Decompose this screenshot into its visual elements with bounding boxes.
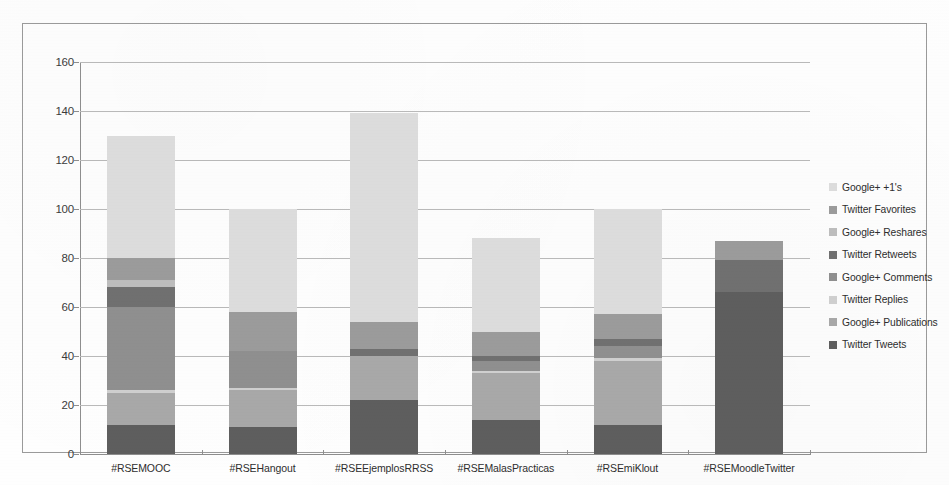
bar-segment[interactable] (107, 393, 175, 425)
y-tick-mark-140 (74, 111, 79, 112)
bar-segment[interactable] (472, 361, 540, 371)
legend-item[interactable]: Twitter Favorites (829, 199, 947, 222)
bar-segment[interactable] (472, 373, 540, 420)
bar-segment[interactable] (229, 209, 297, 312)
y-tick-label-120: 120 (55, 154, 74, 166)
bar-stack-rsemiklout[interactable] (594, 209, 662, 454)
legend-swatch-icon (829, 318, 837, 326)
legend-item[interactable]: Google+ Reshares (829, 221, 947, 244)
bar-segment[interactable] (350, 356, 418, 400)
x-tick-mark (810, 450, 811, 455)
legend-label: Google+ Comments (842, 272, 932, 283)
bar-segment[interactable] (472, 238, 540, 331)
plot-area (80, 62, 810, 454)
page-background: 020406080100120140160 #RSEMOOC#RSEHangou… (0, 0, 949, 485)
category-label-rsemooc: #RSEMOOC (111, 462, 170, 474)
legend-label: Google+ +1's (842, 182, 902, 193)
bar-segment[interactable] (594, 346, 662, 358)
bar-segment[interactable] (594, 209, 662, 314)
bar-segment[interactable] (594, 339, 662, 346)
bar-segment[interactable] (107, 280, 175, 287)
legend-swatch-icon (829, 273, 837, 281)
legend-swatch-icon (829, 251, 837, 259)
y-tick-label-160: 160 (55, 56, 74, 68)
gridline-60 (80, 307, 810, 308)
x-tick-mark (567, 450, 568, 455)
legend-swatch-icon (829, 228, 837, 236)
y-tick-mark-0 (74, 454, 79, 455)
chart-frame: 020406080100120140160 #RSEMOOC#RSEHangou… (22, 23, 927, 453)
legend-swatch-icon (829, 341, 837, 349)
y-tick-mark-40 (74, 356, 79, 357)
bar-segment[interactable] (350, 400, 418, 454)
gridline-100 (80, 209, 810, 210)
category-label-rsemiklout: #RSEmiKlout (597, 462, 658, 474)
legend-label: Twitter Favorites (842, 204, 916, 215)
bar-segment[interactable] (350, 349, 418, 356)
bar-segment[interactable] (229, 390, 297, 427)
bar-segment[interactable] (594, 425, 662, 454)
x-tick-mark (323, 450, 324, 455)
y-tick-mark-20 (74, 405, 79, 406)
legend-item[interactable]: Twitter Replies (829, 289, 947, 312)
legend-item[interactable]: Google+ Comments (829, 266, 947, 289)
bar-segment[interactable] (715, 241, 783, 261)
y-tick-label-20: 20 (62, 399, 74, 411)
bar-segment[interactable] (472, 332, 540, 357)
legend-label: Twitter Replies (842, 294, 908, 305)
y-tick-mark-120 (74, 160, 79, 161)
bar-stack-rsemooc[interactable] (107, 136, 175, 454)
category-label-rsehangout: #RSEHangout (229, 462, 295, 474)
bar-segment[interactable] (229, 312, 297, 351)
gridline-120 (80, 160, 810, 161)
gridline-80 (80, 258, 810, 259)
bar-stack-rseejemplosrrss[interactable] (350, 113, 418, 454)
bar-segment[interactable] (472, 420, 540, 454)
bar-segment[interactable] (107, 287, 175, 307)
bar-segment[interactable] (107, 136, 175, 259)
bar-segment[interactable] (594, 361, 662, 425)
bar-segment[interactable] (107, 258, 175, 280)
bar-segment[interactable] (229, 351, 297, 388)
bar-segment[interactable] (715, 260, 783, 292)
x-tick-mark (80, 450, 81, 455)
legend-label: Google+ Reshares (842, 227, 927, 238)
legend-item[interactable]: Google+ +1's (829, 176, 947, 199)
legend-item[interactable]: Twitter Retweets (829, 244, 947, 267)
bar-stack-rsehangout[interactable] (229, 209, 297, 454)
y-tick-label-40: 40 (62, 350, 74, 362)
legend-swatch-icon (829, 183, 837, 191)
y-tick-label-140: 140 (55, 105, 74, 117)
gridline-160 (80, 62, 810, 63)
bar-segment[interactable] (350, 322, 418, 349)
bar-segment[interactable] (107, 307, 175, 390)
y-tick-mark-60 (74, 307, 79, 308)
legend-label: Google+ Publications (842, 317, 938, 328)
y-tick-label-60: 60 (62, 301, 74, 313)
y-tick-mark-160 (74, 62, 79, 63)
bar-segment[interactable] (350, 113, 418, 321)
y-axis-tick-labels: 020406080100120140160 (33, 62, 74, 454)
chart-legend: Google+ +1'sTwitter FavoritesGoogle+ Res… (829, 176, 947, 356)
gridline-140 (80, 111, 810, 112)
bar-stack-rsemoodletwitter[interactable] (715, 241, 783, 454)
bar-segment[interactable] (229, 427, 297, 454)
x-tick-mark (688, 450, 689, 455)
legend-item[interactable]: Google+ Publications (829, 311, 947, 334)
bar-stack-rsemalaspracticas[interactable] (472, 238, 540, 454)
legend-item[interactable]: Twitter Tweets (829, 334, 947, 357)
gridline-20 (80, 405, 810, 406)
legend-swatch-icon (829, 296, 837, 304)
bar-segment[interactable] (107, 425, 175, 454)
y-tick-mark-100 (74, 209, 79, 210)
y-tick-mark-80 (74, 258, 79, 259)
bar-segment[interactable] (594, 314, 662, 339)
gridline-40 (80, 356, 810, 357)
x-tick-mark (445, 450, 446, 455)
legend-swatch-icon (829, 206, 837, 214)
category-label-rsemalaspracticas: #RSEMalasPracticas (457, 462, 554, 474)
y-tick-label-80: 80 (62, 252, 74, 264)
bar-segment[interactable] (715, 292, 783, 454)
x-tick-mark (202, 450, 203, 455)
category-label-rsemoodletwitter: #RSEMoodleTwitter (704, 462, 795, 474)
